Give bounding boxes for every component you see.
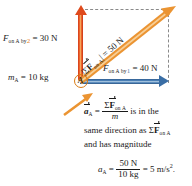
mass-value: = 10 kg	[21, 72, 49, 82]
fraction-denominator: m	[102, 111, 128, 122]
force-by-1-value: = 40 N	[132, 63, 157, 73]
acceleration-fraction: ΣFon A m	[102, 101, 128, 121]
acceleration-value-fraction: 50 N 10 kg	[116, 159, 140, 179]
caption-equals-1: =	[95, 106, 100, 116]
force-by-2-symbol: F	[3, 33, 9, 43]
caption-line-3: and has magnitude	[84, 140, 151, 149]
caption-line-1: aA = ΣFon A m is in the	[84, 102, 159, 122]
caption-tail-1: is in the	[130, 106, 159, 116]
net-force-subscript-1: on A	[115, 105, 126, 111]
acceleration-symbol: a	[84, 107, 89, 116]
acceleration-result: = 5 m/s	[143, 164, 170, 174]
force-diagram-figure: A Fon A by2 = 30 N mA = 10 kg Fon A by1 …	[0, 0, 192, 186]
force-by-2-subscript: on A by	[9, 38, 27, 44]
mass-label: mA = 10 kg	[8, 73, 48, 82]
net-force-subscript-2: on A	[159, 130, 170, 136]
force-by-1-symbol: F	[103, 63, 109, 73]
caption-line-4: aA = 50 N 10 kg = 5 m/s2.	[98, 160, 175, 180]
caption-equals-2: =	[109, 164, 114, 174]
caption-period: .	[173, 164, 175, 174]
value-fraction-numerator: 50 N	[116, 159, 140, 169]
value-fraction-denominator: 10 kg	[116, 169, 140, 180]
acceleration-subscript-2: A	[103, 169, 107, 175]
force-by-2-value: = 30 N	[32, 33, 57, 43]
caption-line-2: same direction as ΣFon A	[84, 126, 171, 135]
mass-subscript: A	[15, 77, 19, 83]
force-by-1-label: Fon A by1 = 40 N	[103, 64, 158, 73]
particle-a-label: A	[78, 77, 84, 85]
force-by-1-subscript: on A by	[109, 68, 127, 74]
force-by-1-index: 1	[127, 67, 131, 75]
mass-symbol: m	[8, 72, 15, 82]
fraction-numerator: ΣFon A	[102, 101, 128, 111]
resultant-force-arrow	[72, 0, 182, 90]
acceleration-symbol-2: a	[98, 164, 103, 174]
force-by-2-label: Fon A by2 = 30 N	[3, 34, 58, 43]
caption-line-2-head: same direction as	[84, 125, 146, 135]
force-by-2-index: 2	[27, 37, 31, 45]
acceleration-subscript: A	[89, 111, 93, 117]
